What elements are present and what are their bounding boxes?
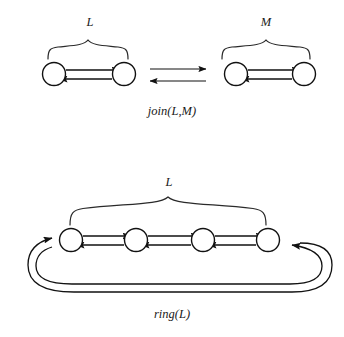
join-panel: L M join(L,M) (43, 15, 316, 118)
diagram-canvas: L M join(L,M) (0, 0, 344, 337)
node-circle (43, 63, 66, 86)
brace-label-M: M (260, 15, 272, 29)
node-circle (125, 229, 148, 252)
ring-edges (76, 236, 264, 245)
brace-M (222, 40, 310, 59)
group-L-nodes (43, 63, 136, 86)
ring-nodes (60, 229, 280, 252)
node-circle (192, 229, 215, 252)
brace-L (48, 40, 128, 59)
node-circle (293, 63, 316, 86)
caption-ring: ring(L) (154, 307, 190, 321)
node-circle (225, 63, 248, 86)
join-connector-arrows (150, 69, 206, 81)
caption-join: join(L,M) (146, 104, 196, 118)
node-circle (113, 63, 136, 86)
node-circle (60, 229, 83, 252)
group-M-nodes (225, 63, 316, 86)
figure-root: L M join(L,M) (0, 0, 344, 337)
ring-panel: L ring(L) (28, 175, 332, 321)
brace-L-ring (70, 197, 266, 225)
group-L-edges (59, 70, 120, 79)
brace-label-L: L (86, 15, 94, 29)
group-M-edges (241, 70, 300, 79)
brace-label-L-ring: L (165, 175, 173, 189)
node-circle (257, 229, 280, 252)
